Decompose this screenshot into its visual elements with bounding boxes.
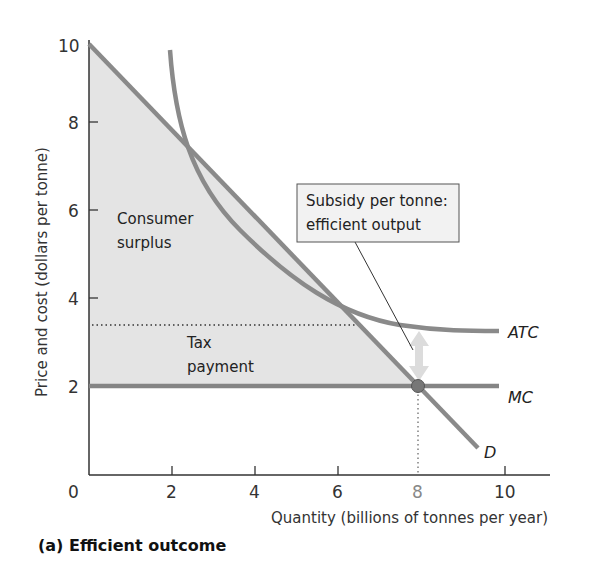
y-tick-6: 6 <box>68 201 79 221</box>
chart: Subsidy per tonne: efficient output Cons… <box>0 0 594 571</box>
x-tick-8: 8 <box>412 482 423 502</box>
figure-caption: (a) Efficient outcome <box>38 536 226 555</box>
callout-line-2: efficient output <box>306 216 421 234</box>
y-tick-8: 8 <box>68 113 79 133</box>
consumer-surplus-label-2: surplus <box>117 234 172 252</box>
y-tick-2: 2 <box>68 377 79 397</box>
subsidy-double-arrow <box>409 331 429 381</box>
d-label: D <box>484 443 496 462</box>
mc-label: MC <box>508 388 534 407</box>
x-tick-4: 4 <box>249 482 260 502</box>
x-tick-0: 0 <box>68 482 79 502</box>
consumer-surplus-label-1: Consumer <box>117 210 194 228</box>
x-tick-6: 6 <box>332 482 343 502</box>
x-ticks <box>172 466 505 475</box>
tax-label-2: payment <box>187 358 254 376</box>
x-tick-10: 10 <box>494 482 516 502</box>
efficient-point <box>412 380 425 393</box>
y-tick-10: 10 <box>58 36 80 56</box>
x-axis-title: Quantity (billions of tonnes per year) <box>271 509 548 527</box>
y-axis-title: Price and cost (dollars per tonne) <box>33 147 51 397</box>
tax-label-1: Tax <box>186 334 212 352</box>
atc-label: ATC <box>507 323 540 342</box>
callout-line-1: Subsidy per tonne: <box>306 192 448 210</box>
y-tick-4: 4 <box>68 289 79 309</box>
x-tick-2: 2 <box>166 482 177 502</box>
